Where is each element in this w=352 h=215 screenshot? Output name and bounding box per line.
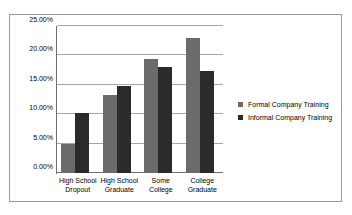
x-axis-category-label: High SchoolDropout bbox=[55, 177, 101, 194]
legend-item[interactable]: Formal Company Training bbox=[238, 101, 338, 108]
category-label-line: High School bbox=[55, 177, 101, 186]
bar-group bbox=[140, 26, 182, 173]
chart-frame: 0.00%5.00%10.00%15.00%20.00%25.00% High … bbox=[9, 14, 342, 202]
category-label-line: College bbox=[138, 186, 184, 195]
category-label-line: Some bbox=[138, 177, 184, 186]
y-axis-tick-label: 0.00% bbox=[33, 163, 53, 170]
x-axis-category-label: SomeCollege bbox=[138, 177, 184, 194]
bar[interactable] bbox=[158, 67, 172, 173]
category-label-line: Graduate bbox=[179, 186, 225, 195]
bar[interactable] bbox=[61, 144, 75, 173]
y-axis-tick-label: 25.00% bbox=[29, 16, 53, 23]
plot-area: 0.00%5.00%10.00%15.00%20.00%25.00% High … bbox=[57, 26, 223, 173]
legend-label: Formal Company Training bbox=[248, 101, 329, 108]
bar-group bbox=[57, 26, 99, 173]
legend-item[interactable]: Informal Company Training bbox=[238, 114, 338, 121]
bar-group bbox=[99, 26, 141, 173]
legend: Formal Company TrainingInformal Company … bbox=[238, 101, 338, 127]
y-axis-tick-label: 5.00% bbox=[33, 133, 53, 140]
legend-swatch-icon bbox=[238, 102, 243, 107]
bar[interactable] bbox=[186, 38, 200, 173]
x-axis-category-label: CollegeGraduate bbox=[179, 177, 225, 194]
bar[interactable] bbox=[200, 71, 214, 173]
y-axis-tick-label: 10.00% bbox=[29, 104, 53, 111]
y-axis-tick-label: 15.00% bbox=[29, 74, 53, 81]
category-label-line: College bbox=[179, 177, 225, 186]
bars-layer bbox=[57, 26, 223, 173]
bar[interactable] bbox=[117, 86, 131, 173]
x-axis-category-label: High SchoolGraduate bbox=[96, 177, 142, 194]
bar[interactable] bbox=[75, 113, 89, 173]
legend-label: Informal Company Training bbox=[248, 114, 332, 121]
legend-swatch-icon bbox=[238, 115, 243, 120]
category-label-line: High School bbox=[96, 177, 142, 186]
bar[interactable] bbox=[103, 95, 117, 173]
category-label-line: Graduate bbox=[96, 186, 142, 195]
bar[interactable] bbox=[144, 59, 158, 173]
y-axis-tick-label: 20.00% bbox=[29, 45, 53, 52]
bar-group bbox=[182, 26, 224, 173]
category-label-line: Dropout bbox=[55, 186, 101, 195]
